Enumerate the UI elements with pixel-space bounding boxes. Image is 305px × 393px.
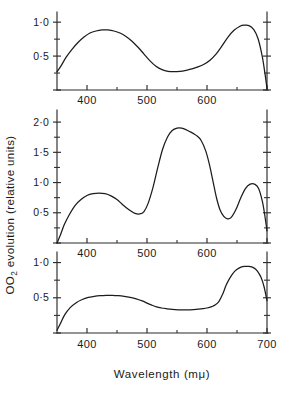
x-axis-title: Wavelength (mμ)	[114, 368, 210, 380]
panel-top: 4005006000·51·0	[33, 12, 271, 106]
x-tick-label: 600	[197, 338, 216, 350]
x-tick-label: 400	[77, 338, 96, 350]
y-tick-label: 1·0	[33, 256, 49, 268]
figure-canvas: 4005006000·51·0 4005006000·51·01·52·0 40…	[0, 0, 305, 393]
y-tick-label: 1·0	[33, 176, 49, 188]
y-tick-label: 0·5	[33, 206, 49, 218]
y-tick-label: 1·5	[33, 146, 49, 158]
y-tick-label: 0·5	[33, 50, 49, 62]
y-axis-title-rest: evolution (relative units)	[4, 135, 16, 270]
x-tick-label: 500	[137, 247, 156, 259]
x-tick-label: 400	[77, 94, 96, 106]
y-axis-title-o: O	[4, 276, 16, 285]
panel-bottom: 4005006007000·51·0	[33, 252, 276, 350]
x-tick-label: 500	[137, 338, 156, 350]
x-tick-label: 600	[197, 247, 216, 259]
spectrum-curve-top	[57, 25, 267, 89]
spectrum-curve-bottom	[57, 266, 267, 330]
x-tick-label: 700	[257, 338, 276, 350]
panel-middle: 4005006000·51·01·52·0	[33, 110, 271, 259]
action-spectra-figure: 4005006000·51·0 4005006000·51·01·52·0 40…	[0, 0, 305, 393]
y-tick-label: 0·5	[33, 291, 49, 303]
spectrum-curve-middle	[57, 128, 267, 243]
x-tick-label: 500	[137, 94, 156, 106]
x-tick-label: 600	[197, 94, 216, 106]
y-tick-label: 1·0	[33, 16, 49, 28]
y-axis-title: OO2 evolution (relative units)	[4, 135, 19, 294]
y-tick-label: 2·0	[33, 116, 49, 128]
x-tick-label: 400	[77, 247, 96, 259]
